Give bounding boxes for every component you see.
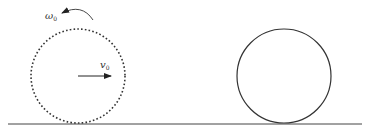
- omega-label: ω0: [45, 10, 57, 22]
- angular-velocity-arrow-icon: [62, 9, 93, 20]
- diagram-canvas: ω0 v0: [0, 0, 370, 138]
- v0-label: v0: [100, 59, 110, 71]
- final-ball-solid: [237, 29, 331, 123]
